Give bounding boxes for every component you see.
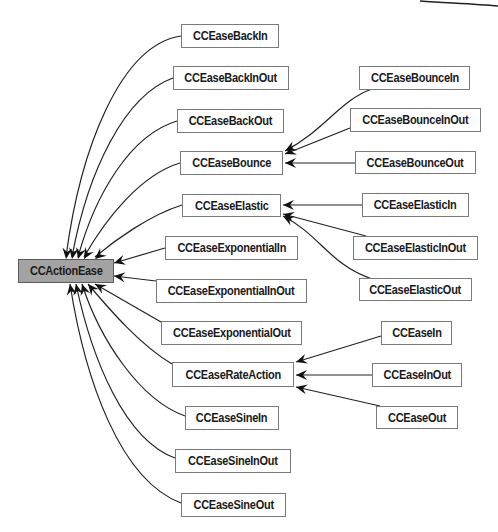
class-node-label: CCEaseElasticIn	[374, 198, 457, 212]
inheritance-edge	[66, 36, 181, 257]
inheritance-edge	[296, 336, 381, 362]
inheritance-edge	[72, 78, 173, 257]
class-node-ccactionease[interactable]: CCActionEase	[18, 259, 114, 283]
class-node-label: CCEaseElastic	[195, 199, 269, 213]
class-node-cceaseexponentialout[interactable]: CCEaseExponentialOut	[161, 321, 302, 345]
class-node-label: CCEaseOut	[388, 411, 446, 425]
arrowhead-icon	[283, 216, 295, 225]
class-node-cceasebackout[interactable]: CCEaseBackOut	[177, 109, 284, 133]
class-node-cceaseelastic[interactable]: CCEaseElastic	[182, 194, 281, 217]
inheritance-edge	[283, 214, 366, 236]
inheritance-edge	[285, 128, 350, 154]
class-node-cceasebackin[interactable]: CCEaseBackIn	[181, 24, 279, 48]
inheritance-diagram: CCActionEaseCCEaseBackInCCEaseBackInOutC…	[0, 0, 498, 532]
class-node-cceaseexponentialinout[interactable]: CCEaseExponentialInOut	[156, 279, 307, 303]
class-node-label: CCEaseSineOut	[193, 498, 273, 512]
class-node-label: CCEaseBounceOut	[367, 156, 464, 170]
inheritance-edge	[296, 387, 380, 406]
class-node-label: CCEaseSineInOut	[188, 454, 278, 468]
class-node-label: CCEaseElasticInOut	[365, 241, 466, 255]
class-node-label: CCEaseElasticOut	[370, 283, 462, 297]
class-node-cceasesineout[interactable]: CCEaseSineOut	[181, 493, 286, 517]
class-node-label: CCEaseBackInOut	[185, 71, 278, 85]
class-node-label: CCEaseSineIn	[196, 411, 267, 425]
class-node-label: CCEaseBounceInOut	[362, 113, 468, 127]
class-node-label: CCActionEase	[30, 264, 103, 278]
class-node-cceasebouncein[interactable]: CCEaseBounceIn	[359, 66, 470, 90]
inheritance-edge	[114, 248, 165, 263]
class-node-cceasesineinout[interactable]: CCEaseSineInOut	[175, 449, 291, 473]
class-node-label: CCEaseBounceIn	[371, 71, 459, 85]
class-node-cceaseexponentialin[interactable]: CCEaseExponentialIn	[165, 236, 298, 260]
edge-fragment	[420, 1, 498, 6]
class-node-cceaseinout[interactable]: CCEaseInOut	[372, 363, 462, 387]
inheritance-edge	[76, 284, 175, 458]
class-node-cceasebackinout[interactable]: CCEaseBackInOut	[173, 66, 289, 90]
class-node-cceaseout[interactable]: CCEaseOut	[376, 406, 458, 429]
inheritance-edge	[70, 284, 181, 503]
class-node-cceasesinein[interactable]: CCEaseSineIn	[185, 406, 279, 430]
class-node-cceasein[interactable]: CCEaseIn	[381, 321, 452, 345]
class-node-cceaseelasticin[interactable]: CCEaseElasticIn	[362, 193, 469, 217]
class-node-label: CCEaseExponentialIn	[177, 241, 286, 255]
class-node-label: CCEaseBackIn	[193, 29, 267, 43]
arrowhead-icon	[95, 248, 107, 259]
class-node-cceasebounceout[interactable]: CCEaseBounceOut	[355, 151, 476, 174]
class-node-cceaserateaction[interactable]: CCEaseRateAction	[172, 362, 294, 387]
class-node-cceaseelasticinout[interactable]: CCEaseElasticInOut	[353, 236, 478, 260]
class-node-label: CCEaseIn	[392, 326, 441, 340]
class-node-label: CCEaseExponentialOut	[173, 326, 291, 340]
class-node-label: CCEaseRateAction	[185, 368, 280, 382]
class-node-cceasebounce[interactable]: CCEaseBounce	[180, 151, 283, 175]
class-node-cceaseelasticout[interactable]: CCEaseElasticOut	[359, 278, 472, 301]
class-node-label: CCEaseInOut	[383, 368, 450, 382]
class-node-label: CCEaseExponentialInOut	[168, 284, 295, 298]
class-node-label: CCEaseBackOut	[189, 114, 272, 128]
class-node-label: CCEaseBounce	[192, 156, 271, 170]
class-node-cceasebounceinout[interactable]: CCEaseBounceInOut	[350, 108, 481, 132]
